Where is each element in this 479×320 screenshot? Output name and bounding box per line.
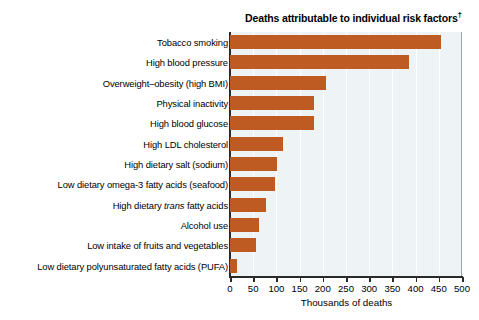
bar xyxy=(230,259,237,273)
category-label: Low dietary polyunsaturated fatty acids … xyxy=(37,260,228,271)
x-tick-label: 50 xyxy=(248,283,259,294)
category-label: Alcohol use xyxy=(181,220,228,231)
category-label: High LDL cholesterol xyxy=(143,138,228,149)
bar-row: Low intake of fruits and vegetables xyxy=(0,235,479,255)
category-label: Low intake of fruits and vegetables xyxy=(87,240,228,251)
x-tick xyxy=(416,277,418,282)
category-label: Physical inactivity xyxy=(156,98,228,109)
chart-title: Deaths attributable to individual risk f… xyxy=(228,10,479,24)
x-tick xyxy=(346,277,348,282)
category-label: Tobacco smoking xyxy=(157,37,228,48)
x-tick xyxy=(462,277,464,282)
bar xyxy=(230,76,326,90)
x-tick xyxy=(300,277,302,282)
bar xyxy=(230,35,441,49)
bar-row: Low dietary omega-3 fatty acids (seafood… xyxy=(0,174,479,194)
bar xyxy=(230,96,314,110)
x-tick xyxy=(253,277,255,282)
x-tick-label: 100 xyxy=(268,283,284,294)
bar xyxy=(230,177,275,191)
bar-row: Low dietary polyunsaturated fatty acids … xyxy=(0,256,479,276)
category-label: High blood glucose xyxy=(150,118,228,129)
category-label: High dietary salt (sodium) xyxy=(124,159,228,170)
x-tick-label: 500 xyxy=(454,283,470,294)
x-tick-label: 450 xyxy=(431,283,447,294)
x-axis-title: Thousands of deaths xyxy=(230,297,463,308)
x-tick-label: 200 xyxy=(315,283,331,294)
bar xyxy=(230,198,266,212)
category-label: Overweight–obesity (high BMI) xyxy=(103,77,228,88)
x-tick-label: 0 xyxy=(227,283,232,294)
x-tick xyxy=(276,277,278,282)
x-axis-tick-labels: 050100150200250300350400450500 xyxy=(0,283,479,296)
category-label: High dietary trans fatty acids xyxy=(113,199,228,210)
x-tick xyxy=(323,277,325,282)
bar xyxy=(230,238,256,252)
bar-row: Physical inactivity xyxy=(0,93,479,113)
bar xyxy=(230,157,277,171)
bar-row: High blood glucose xyxy=(0,113,479,133)
bar-row: Overweight–obesity (high BMI) xyxy=(0,73,479,93)
x-tick-label: 400 xyxy=(408,283,424,294)
bar-rows: Tobacco smokingHigh blood pressureOverwe… xyxy=(0,32,479,276)
category-label: High blood pressure xyxy=(146,57,228,68)
bar xyxy=(230,218,259,232)
bar-chart-figure: Deaths attributable to individual risk f… xyxy=(0,0,479,320)
bar-row: High dietary trans fatty acids xyxy=(0,195,479,215)
x-tick xyxy=(369,277,371,282)
bar xyxy=(230,116,314,130)
x-tick-label: 150 xyxy=(292,283,308,294)
x-tick-label: 250 xyxy=(338,283,354,294)
chart-title-text: Deaths attributable to individual risk f… xyxy=(245,12,457,24)
bar-row: Alcohol use xyxy=(0,215,479,235)
x-tick xyxy=(439,277,441,282)
x-tick-label: 300 xyxy=(361,283,377,294)
category-label: Low dietary omega-3 fatty acids (seafood… xyxy=(58,179,228,190)
bar-row: High dietary salt (sodium) xyxy=(0,154,479,174)
x-tick xyxy=(230,277,232,282)
figure-footnote xyxy=(6,312,306,320)
bar xyxy=(230,137,283,151)
bar-row: High blood pressure xyxy=(0,52,479,72)
bar xyxy=(230,55,409,69)
title-footnote-marker: † xyxy=(458,10,462,19)
x-tick xyxy=(392,277,394,282)
bar-row: High LDL cholesterol xyxy=(0,134,479,154)
x-tick-label: 350 xyxy=(384,283,400,294)
bar-row: Tobacco smoking xyxy=(0,32,479,52)
